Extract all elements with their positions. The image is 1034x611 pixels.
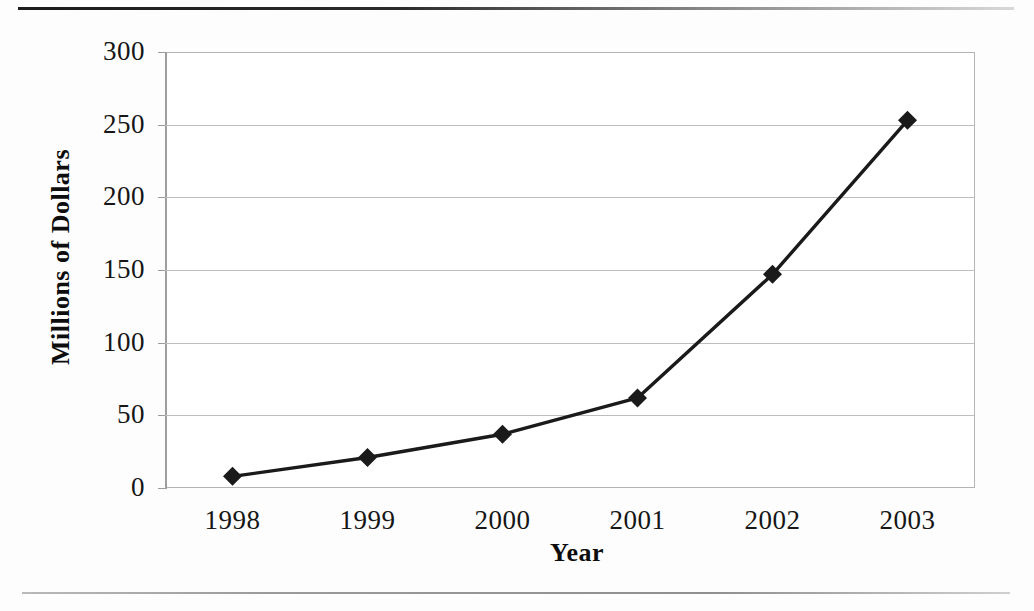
x-axis-title: Year [367,538,787,568]
y-axis-tick-label: 150 [89,256,145,283]
y-axis-title: Millions of Dollars [46,92,76,422]
y-axis-tick-mark [158,197,165,198]
y-axis-tick-label: 300 [89,38,145,65]
y-axis-tick-label: 50 [89,401,145,428]
y-axis-tick-mark [158,270,165,271]
y-axis-tick-mark [158,343,165,344]
gridline [165,125,975,126]
y-axis-tick-label: 200 [89,183,145,210]
y-axis-tick-label: 250 [89,111,145,138]
y-axis-tick-mark [158,488,165,489]
x-axis-tick-label: 2002 [713,505,833,535]
gridline [165,343,975,344]
figure-page: 300250200150100500 199819992000200120022… [0,0,1034,611]
gridline [165,415,975,416]
gridline [165,197,975,198]
x-axis-tick-label: 2001 [578,505,698,535]
gridline [165,270,975,271]
line-chart: 300250200150100500 199819992000200120022… [0,0,1034,611]
y-axis-tick-label: 0 [89,474,145,501]
y-axis-tick-mark [158,125,165,126]
y-axis-tick-mark [158,52,165,53]
x-axis-tick-label: 1998 [173,505,293,535]
x-axis-tick-label: 2000 [443,505,563,535]
x-axis-tick-label: 2003 [848,505,968,535]
x-axis-tick-label: 1999 [308,505,428,535]
y-axis-tick-label: 100 [89,329,145,356]
y-axis-tick-mark [158,415,165,416]
